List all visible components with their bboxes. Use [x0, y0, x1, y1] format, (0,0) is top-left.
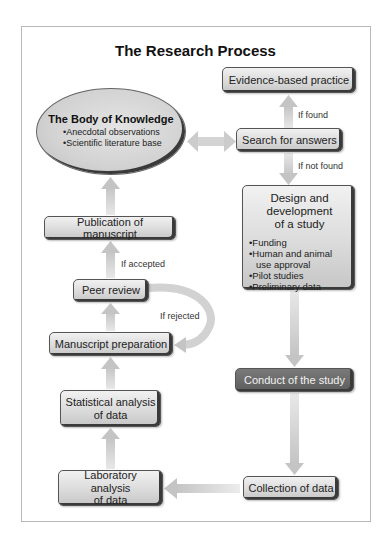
label-if-accepted: If accepted	[121, 259, 165, 269]
arrow-design-to-conduct	[285, 291, 304, 367]
design-title-line: development	[249, 205, 350, 218]
arrow-conduct-to-collection	[285, 393, 304, 475]
arrow-stat-to-manuscript	[101, 357, 120, 389]
label-if-found: If found	[298, 110, 328, 120]
line: of data	[94, 494, 128, 507]
node-search-for-answers[interactable]: Search for answers	[236, 128, 343, 152]
arrow-manuscript-to-peer	[101, 303, 120, 331]
list-item: Human and animal	[249, 248, 350, 259]
arrow-if-accepted	[101, 241, 120, 278]
line: Laboratory analysis	[63, 469, 158, 494]
double-arrow	[187, 131, 236, 152]
arrow-publication-to-body	[101, 177, 120, 215]
list-item: Anecdotal observations	[63, 127, 185, 138]
list-item: Funding	[249, 237, 350, 248]
design-title-line: Design and	[249, 192, 350, 205]
list-item: Pilot studies	[249, 270, 350, 281]
node-collection-of-data[interactable]: Collection of data	[243, 476, 339, 500]
arrow-if-not-found	[279, 153, 298, 185]
arrow-if-found	[279, 95, 298, 128]
arrow-collection-to-lab	[164, 478, 240, 499]
node-body-of-knowledge[interactable]: The Body of Knowledge Anecdotal observat…	[36, 88, 186, 175]
arrow-lab-to-stat	[101, 428, 120, 469]
list-item: Scientific literature base	[63, 138, 185, 149]
node-design-of-study[interactable]: Design and development of a study Fundin…	[242, 185, 355, 290]
design-list: Funding Human and animal use approval Pi…	[249, 237, 350, 292]
label-if-not-found: If not found	[298, 161, 343, 171]
body-of-knowledge-list: Anecdotal observations Scientific litera…	[37, 127, 185, 148]
node-laboratory-analysis[interactable]: Laboratory analysis of data	[58, 470, 163, 506]
node-manuscript-preparation[interactable]: Manuscript preparation	[49, 332, 173, 356]
node-conduct-of-study[interactable]: Conduct of the study	[235, 368, 354, 392]
label-if-rejected: If rejected	[160, 311, 200, 321]
node-publication-of-manuscript[interactable]: Publication of manuscript	[44, 216, 176, 240]
line: of data	[94, 409, 128, 422]
node-evidence-based-practice[interactable]: Evidence-based practice	[222, 67, 356, 93]
body-of-knowledge-title: The Body of Knowledge	[37, 113, 185, 125]
list-item: Preliminary data	[249, 281, 350, 292]
design-title-line: of a study	[249, 218, 350, 231]
list-item-continuation: use approval	[249, 259, 350, 270]
node-peer-review[interactable]: Peer review	[73, 279, 149, 302]
line: Statistical analysis	[66, 396, 156, 409]
node-statistical-analysis[interactable]: Statistical analysis of data	[60, 390, 161, 427]
